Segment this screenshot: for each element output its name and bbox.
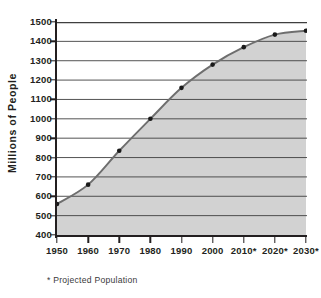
plot-area	[57, 22, 307, 235]
population-area-chart: Millions of People 400500600700800900100…	[0, 0, 321, 298]
x-tick-label: 1950	[46, 246, 68, 256]
x-tick-label: 1960	[77, 246, 99, 256]
y-tick-label: 1100	[31, 95, 52, 105]
x-tick-mark	[150, 237, 151, 243]
x-tick-label: 2030*	[293, 246, 319, 256]
x-tick-label: 2020*	[262, 246, 288, 256]
y-tick-label: 1000	[30, 114, 52, 124]
y-tick-mark	[50, 215, 56, 216]
data-point-marker	[117, 148, 122, 153]
y-axis-title: Millions of People	[0, 0, 24, 245]
x-tick-mark	[56, 237, 57, 243]
y-tick-mark	[50, 41, 56, 42]
x-tick-label: 2000	[202, 246, 224, 256]
data-point-marker	[179, 86, 184, 91]
area-fill	[57, 31, 306, 235]
y-tick-label: 1300	[30, 56, 52, 66]
x-tick-label: 1970	[108, 246, 130, 256]
x-tick-mark	[274, 237, 275, 243]
x-tick-label: 1980	[139, 246, 161, 256]
y-tick-mark	[50, 157, 56, 158]
x-tick-mark	[243, 237, 244, 243]
y-tick-label: 1200	[30, 75, 52, 85]
data-point-marker	[210, 62, 215, 67]
x-tick-mark	[305, 237, 306, 243]
y-axis-title-label: Millions of People	[6, 72, 18, 172]
x-tick-mark	[87, 237, 88, 243]
y-tick-mark	[50, 234, 56, 235]
chart-footnote: * Projected Population	[47, 275, 138, 285]
y-tick-mark	[50, 176, 56, 177]
data-point-marker	[148, 117, 153, 122]
y-tick-mark	[50, 99, 56, 100]
x-tick-mark	[181, 237, 182, 243]
y-tick-mark	[50, 60, 56, 61]
x-tick-mark	[119, 237, 120, 243]
y-tick-mark	[50, 79, 56, 80]
y-tick-mark	[50, 21, 56, 22]
y-tick-mark	[50, 137, 56, 138]
x-tick-label: 2010*	[231, 246, 257, 256]
x-tick-label: 1990	[171, 246, 193, 256]
y-tick-mark	[50, 118, 56, 119]
data-point-marker	[273, 32, 278, 37]
y-tick-label: 1400	[30, 37, 52, 47]
y-tick-mark	[50, 196, 56, 197]
y-axis-tick-labels: 4005006007008009001000110012001300140015…	[24, 0, 57, 245]
data-point-marker	[86, 182, 91, 187]
data-point-marker	[241, 45, 246, 50]
y-tick-label: 1500	[30, 17, 52, 27]
series-plot	[57, 22, 307, 235]
x-tick-mark	[212, 237, 213, 243]
x-axis-tick-labels: 1950196019701980199020002010*2020*2030*	[0, 246, 321, 262]
